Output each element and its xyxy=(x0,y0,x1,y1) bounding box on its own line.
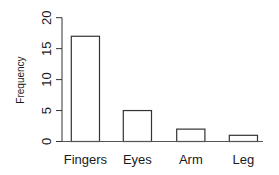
x-tick-label: Fingers xyxy=(64,152,108,167)
bar-leg xyxy=(229,135,257,141)
x-axis-labels: FingersEyesArmLeg xyxy=(64,152,255,167)
y-tick-label: 10 xyxy=(39,72,54,86)
x-tick-label: Eyes xyxy=(123,152,152,167)
y-tick-label: 0 xyxy=(39,138,54,145)
x-tick-label: Leg xyxy=(233,152,255,167)
x-tick-label: Arm xyxy=(179,152,203,167)
bar-eyes xyxy=(123,111,151,142)
bar-fingers xyxy=(71,36,99,141)
bar-arm xyxy=(177,129,205,141)
y-tick-label: 20 xyxy=(39,10,54,24)
bars xyxy=(71,36,257,141)
y-axis-label: Frequency xyxy=(15,56,26,103)
bar-chart: 05101520 FingersEyesArmLeg Frequency xyxy=(0,0,279,175)
y-tick-label: 15 xyxy=(39,41,54,55)
y-axis: 05101520 xyxy=(39,10,62,145)
y-tick-label: 5 xyxy=(39,107,54,114)
